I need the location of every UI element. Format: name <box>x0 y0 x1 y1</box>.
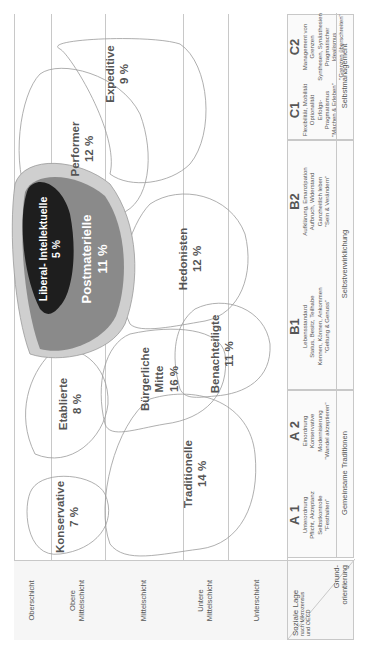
label-expeditive: Expeditive9 % <box>103 45 132 103</box>
label-hedonisten: Hedonisten12 % <box>176 228 205 291</box>
label-liberal-intellektuelle: Liberal- Intellektuelle5 % <box>37 197 63 301</box>
label-traditionelle: Traditionelle14 % <box>181 440 210 508</box>
label-buergerliche-mitte: BürgerlicheMitte16 % <box>138 347 181 411</box>
label-postmaterielle: Postmaterielle11 % <box>79 215 112 304</box>
sinus-milieu-diagram: Oberschicht Obere Mittelschicht Mittelsc… <box>0 0 366 654</box>
label-etablierte: Etablierte8 % <box>56 378 85 430</box>
label-konservative: Konservative7 % <box>53 481 82 553</box>
milieu-bubbles <box>0 0 366 654</box>
label-performer: Performer12 % <box>68 122 97 177</box>
label-benachteiligte: Benachteiligte11 % <box>208 315 237 394</box>
